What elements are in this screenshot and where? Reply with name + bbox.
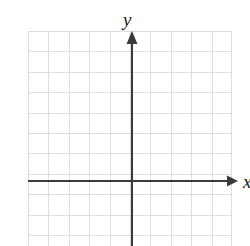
grid-area xyxy=(28,31,232,246)
x-axis-label: x xyxy=(243,172,250,191)
coordinate-plane-figure: y x xyxy=(0,0,250,246)
grid-lines xyxy=(28,31,232,246)
y-axis-label: y xyxy=(123,10,131,29)
